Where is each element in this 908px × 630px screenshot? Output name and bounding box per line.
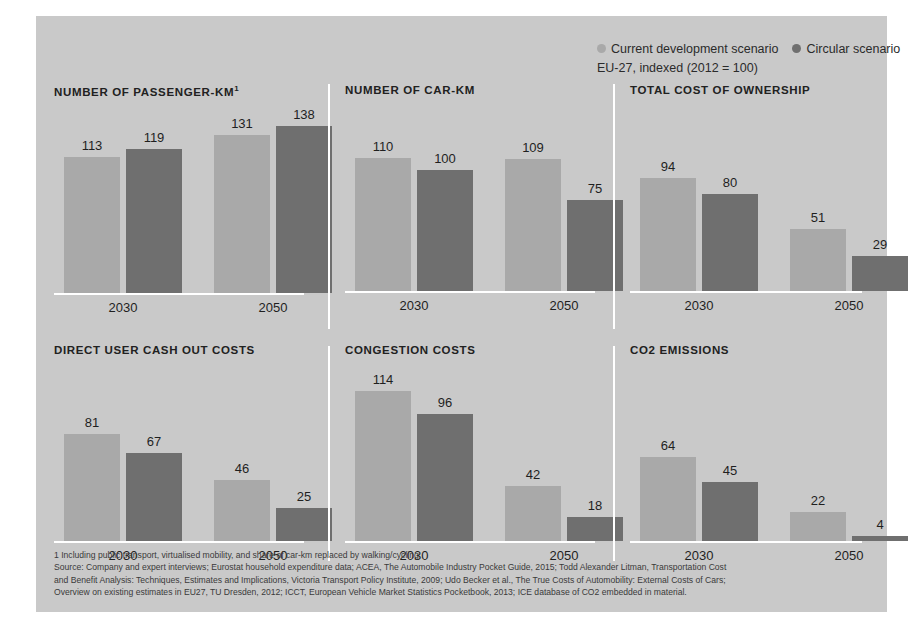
legend-series-row: Current development scenarioCircular sce… [449,40,869,59]
bar-value-label: 100 [417,151,473,166]
x-axis-tick-label: 2030 [640,298,758,313]
footnote-block: 1 Including public transport, virtualise… [54,549,873,598]
legend-swatch-circular-icon [792,44,801,53]
x-axis-tick-label: 2050 [790,298,908,313]
bar [276,126,332,293]
plot-area: 11311920301311382050 [54,104,322,311]
plot-area: 9480203051292050 [630,102,880,309]
plot-area: 1101002030109752050 [345,102,613,309]
footnote-line-3: and Benefit Analysis: Techniques, Estima… [54,574,873,586]
bar [355,391,411,541]
bar-value-label: 18 [567,498,623,513]
axis-baseline [630,291,862,293]
bar [505,486,561,541]
chart-title: DIRECT USER CASH OUT COSTS [54,344,322,356]
bar-value-label: 75 [567,181,623,196]
legend-swatch-current-icon [597,44,606,53]
bar-value-label: 4 [852,517,908,532]
bar-value-label: 138 [276,107,332,122]
bar [567,200,623,291]
column-divider [613,346,615,561]
bar-value-label: 67 [126,434,182,449]
bar [640,457,696,541]
chart-title: CONGESTION COSTS [345,344,613,356]
column-divider [613,84,615,329]
legend-label-current: Current development scenario [611,42,778,56]
footnote-line-4: Overview on existing estimates in EU27, … [54,586,873,598]
chart-panel: NUMBER OF CAR-KM1101002030109752050 [345,84,613,309]
bar-value-label: 114 [355,372,411,387]
bar [214,135,270,293]
column-divider [328,346,330,561]
bar [355,158,411,291]
bar [790,229,846,291]
bar [790,512,846,541]
x-axis-tick-label: 2050 [214,300,332,315]
bar [567,517,623,541]
footnote-line-1: 1 Including public transport, virtualise… [54,549,873,561]
axis-baseline [345,541,595,543]
bar [417,170,473,291]
chart-panel: TOTAL COST OF OWNERSHIP9480203051292050 [630,84,880,309]
bar [276,508,332,541]
bar-value-label: 113 [64,138,120,153]
plot-area: 644520302242050 [630,362,880,559]
chart-title: NUMBER OF PASSENGER-KM1 [54,84,322,98]
chart-legend: Current development scenarioCircular sce… [449,40,869,79]
chart-title: CO2 EMISSIONS [630,344,880,356]
chart-panel: DIRECT USER CASH OUT COSTS81672030462520… [54,344,322,559]
bar-value-label: 80 [702,175,758,190]
bar [64,157,120,293]
axis-baseline [630,541,862,543]
bar [126,149,182,293]
bar-value-label: 131 [214,116,270,131]
x-axis-tick-label: 2030 [64,300,182,315]
chart-title: NUMBER OF CAR-KM [345,84,613,96]
bar-value-label: 25 [276,489,332,504]
axis-baseline [54,541,304,543]
bar [126,453,182,541]
chart-panel: NUMBER OF PASSENGER-KM111311920301311382… [54,84,322,311]
chart-title-footnote-marker: 1 [234,84,239,93]
axis-baseline [345,291,595,293]
plot-area: 11496203042182050 [345,362,613,559]
x-axis-tick-label: 2030 [355,298,473,313]
plot-area: 8167203046252050 [54,362,322,559]
bar-value-label: 110 [355,139,411,154]
bar [702,194,758,291]
infographic-panel: Current development scenarioCircular sce… [36,16,887,612]
bar-value-label: 109 [505,140,561,155]
column-divider [328,84,330,329]
bar-value-label: 51 [790,210,846,225]
bar [702,482,758,541]
axis-baseline [54,293,304,295]
bar-value-label: 46 [214,461,270,476]
bar-value-label: 64 [640,438,696,453]
bar [214,480,270,541]
bar [505,159,561,291]
chart-title: TOTAL COST OF OWNERSHIP [630,84,880,96]
bar-value-label: 96 [417,395,473,410]
bar-value-label: 42 [505,467,561,482]
footnote-line-2: Source: Company and expert interviews; E… [54,561,873,573]
legend-label-circular: Circular scenario [806,42,900,56]
bar [640,178,696,291]
bar-value-label: 94 [640,159,696,174]
bar [852,256,908,291]
bar [64,434,120,541]
bar [417,414,473,541]
legend-subtitle: EU-27, indexed (2012 = 100) [449,59,869,78]
x-axis-tick-label: 2050 [505,298,623,313]
chart-panel: CO2 EMISSIONS644520302242050 [630,344,880,559]
bar-value-label: 119 [126,130,182,145]
chart-grid: NUMBER OF PASSENGER-KM111311920301311382… [54,84,869,539]
bar-value-label: 45 [702,463,758,478]
bar-value-label: 29 [852,237,908,252]
bar-value-label: 22 [790,493,846,508]
bar-value-label: 81 [64,415,120,430]
chart-panel: CONGESTION COSTS11496203042182050 [345,344,613,559]
